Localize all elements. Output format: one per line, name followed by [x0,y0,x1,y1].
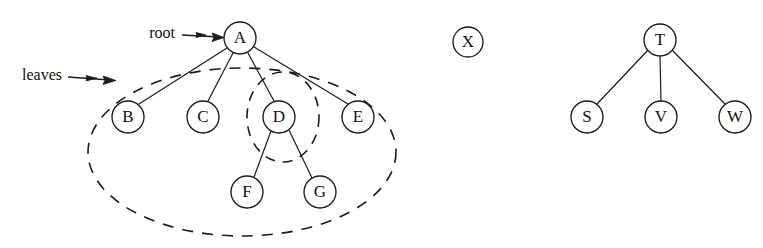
edge-a-b [139,48,227,104]
node-x-label: X [462,32,474,51]
node-e[interactable]: E [342,101,374,133]
node-s[interactable]: S [571,101,603,133]
edge-t-v [660,56,661,101]
tree-3-edges [597,50,725,104]
edge-a-e [254,47,348,104]
node-e-label: E [353,107,363,126]
node-c[interactable]: C [187,101,219,133]
node-x[interactable]: X [453,27,483,57]
leaves-annotation-label: leaves [22,66,62,83]
node-d-label: D [273,107,285,126]
edge-d-f [254,131,271,177]
node-a[interactable]: A [224,22,256,54]
node-f[interactable]: F [231,176,263,208]
edge-t-w [672,50,725,104]
node-t-label: T [655,30,666,49]
node-g[interactable]: G [304,176,336,208]
node-b[interactable]: B [112,101,144,133]
node-v-label: V [655,107,668,126]
edge-a-c [208,53,233,101]
edge-t-s [597,50,648,104]
node-a-label: A [234,28,247,47]
node-s-label: S [582,107,591,126]
node-g-label: G [314,182,326,201]
node-w-label: W [727,107,744,126]
node-w[interactable]: W [719,101,751,133]
root-arrow-head-icon [212,33,224,42]
groupings-layer [88,68,396,236]
node-t[interactable]: T [644,24,676,56]
tree-1-nodes: A B C D E F G [112,22,374,208]
leaves-arrow-barb-icon [86,76,97,81]
root-annotation-label: root [149,24,175,41]
leaves-grouping-ellipse [88,68,396,236]
tree-diagram: A B C D E F G [0,0,763,248]
node-c-label: C [197,107,208,126]
node-b-label: B [122,107,133,126]
leaves-arrow-head-icon [103,76,116,85]
edge-d-g [289,130,312,178]
diagram-canvas: A B C D E F G [0,0,763,248]
tree-1-edges [139,47,348,178]
node-v[interactable]: V [645,101,677,133]
node-f-label: F [242,182,251,201]
annotation-root: root [149,24,224,42]
annotation-leaves: leaves [22,66,116,85]
node-d[interactable]: D [263,101,295,133]
tree-2-nodes: X [453,27,483,57]
